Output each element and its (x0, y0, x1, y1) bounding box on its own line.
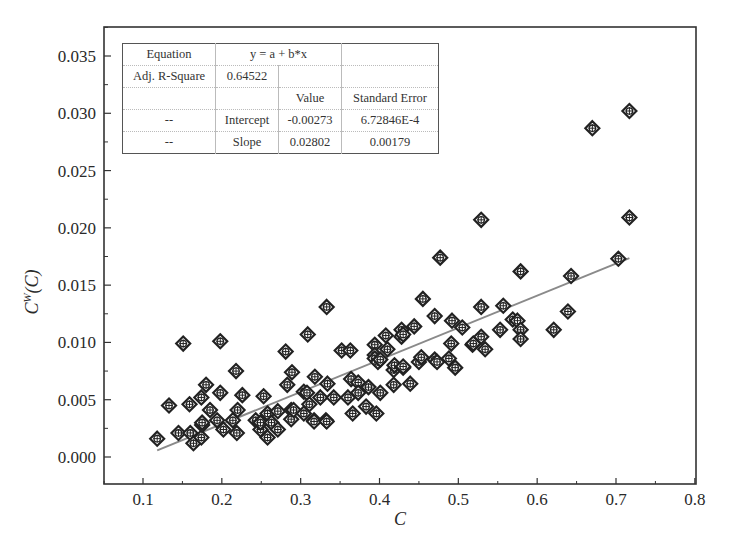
data-point-marker (327, 390, 341, 404)
data-point-marker (301, 327, 315, 341)
x-tick-label: 0.5 (448, 490, 469, 509)
y-tick-label: 0.025 (58, 162, 96, 181)
cell-intercept-label: Intercept (216, 110, 279, 132)
data-point-marker (622, 104, 636, 118)
x-axis-title: C (394, 509, 407, 529)
data-point-marker (514, 264, 528, 278)
table-row-intercept: -- Intercept -0.00273 6.72846E-4 (123, 110, 439, 132)
cell-equation-label: Equation (123, 44, 216, 66)
data-point-marker (162, 398, 176, 412)
data-point-marker (343, 343, 357, 357)
table-row-adj-r-square: Adj. R-Square 0.64522 (123, 66, 439, 88)
x-tick-label: 0.4 (369, 490, 391, 509)
cell-standard-error-header: Standard Error (342, 88, 439, 110)
data-point-marker (585, 121, 599, 135)
table-row-slope: -- Slope 0.02802 0.00179 (123, 132, 439, 154)
data-point-marker (387, 378, 401, 392)
data-point-marker (213, 334, 227, 348)
data-point-marker (150, 432, 164, 446)
data-point-marker (403, 377, 417, 391)
y-tick-label: 0.000 (58, 448, 96, 467)
cell-empty (123, 88, 216, 110)
cell-empty (216, 88, 279, 110)
data-point-marker (428, 309, 442, 323)
data-point-marker (230, 426, 244, 440)
regression-stats-table: Equation y = a + b*x Adj. R-Square 0.645… (122, 43, 439, 154)
data-point-marker (416, 292, 430, 306)
cell-intercept-stderr: 6.72846E-4 (342, 110, 439, 132)
data-point-marker (379, 329, 393, 343)
data-point-marker (474, 300, 488, 314)
cell-slope-stderr: 0.00179 (342, 132, 439, 154)
data-point-marker (346, 406, 360, 420)
data-point-marker (547, 323, 561, 337)
y-tick-label: 0.010 (58, 333, 96, 352)
x-tick-label: 0.7 (605, 490, 627, 509)
x-tick-label: 0.2 (211, 490, 232, 509)
table-row-equation: Equation y = a + b*x (123, 44, 439, 66)
y-tick-label: 0.035 (58, 47, 96, 66)
data-point-marker (433, 251, 447, 265)
y-tick-label: 0.015 (58, 276, 96, 295)
data-point-marker (213, 386, 227, 400)
x-tick-label: 0.1 (132, 490, 153, 509)
cell-adj-r-square-label: Adj. R-Square (123, 66, 216, 88)
data-point-marker (474, 213, 488, 227)
table-row-header: Value Standard Error (123, 88, 439, 110)
y-tick-label: 0.030 (58, 104, 96, 123)
cell-value-header: Value (279, 88, 342, 110)
cell-intercept-value: -0.00273 (279, 110, 342, 132)
data-point-marker (493, 323, 507, 337)
data-points (150, 104, 636, 450)
svg-text:CW(C): CW(C) (21, 269, 43, 314)
data-point-marker (257, 389, 271, 403)
x-axis: 0.10.20.30.40.50.60.70.8 (104, 478, 705, 509)
data-point-marker (514, 332, 528, 346)
cell-dash: -- (123, 132, 216, 154)
data-point-marker (229, 364, 243, 378)
cell-equation-value: y = a + b*x (216, 44, 342, 66)
y-axis-title: CW(C) (21, 269, 43, 314)
data-point-marker (183, 397, 197, 411)
cell-empty (342, 44, 439, 66)
cell-adj-r-square-value: 0.64522 (216, 66, 279, 88)
y-tick-label: 0.020 (58, 219, 96, 238)
data-point-marker (235, 388, 249, 402)
cell-slope-label: Slope (216, 132, 279, 154)
data-point-marker (176, 337, 190, 351)
data-point-marker (561, 304, 575, 318)
cell-empty (342, 66, 439, 88)
cell-slope-value: 0.02802 (279, 132, 342, 154)
x-tick-label: 0.6 (527, 490, 548, 509)
cell-empty (279, 66, 342, 88)
data-point-marker (279, 345, 293, 359)
y-tick-label: 0.005 (58, 391, 96, 410)
y-axis: 0.0000.0050.0100.0150.0200.0250.0300.035 (58, 27, 111, 467)
x-tick-label: 0.3 (290, 490, 311, 509)
data-point-marker (407, 319, 421, 333)
data-point-marker (622, 211, 636, 225)
data-point-marker (320, 300, 334, 314)
cell-dash: -- (123, 110, 216, 132)
data-point-marker (308, 370, 322, 384)
data-point-marker (444, 337, 458, 351)
x-tick-label: 0.8 (684, 490, 705, 509)
